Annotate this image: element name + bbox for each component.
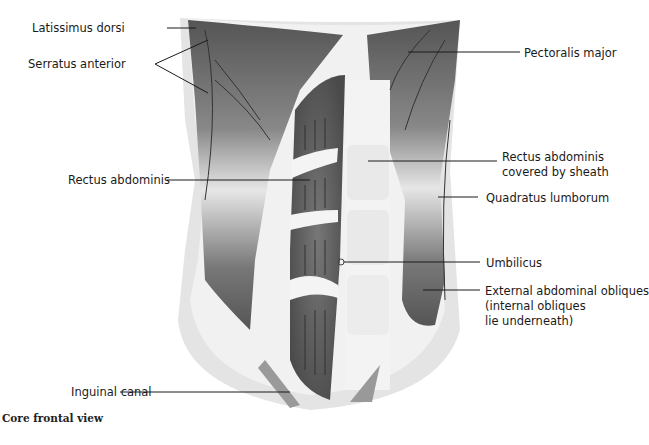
label-latissimus-dorsi: Latissimus dorsi [32,21,125,35]
label-obliques-line3: lie underneath) [485,314,573,328]
label-quadratus-lumborum: Quadratus lumborum [486,191,609,205]
label-rectus-abdominis: Rectus abdominis [68,173,170,187]
label-sheath-line1: Rectus abdominis [502,150,604,164]
figure-caption: Core frontal view [2,412,103,424]
label-umbilicus: Umbilicus [486,256,542,270]
label-inguinal-canal: Inguinal canal [71,385,152,399]
label-obliques-line2: (internal obliques [485,299,586,313]
label-serratus-anterior: Serratus anterior [28,57,126,71]
label-pectoralis-major: Pectoralis major [524,46,617,60]
label-obliques-line1: External abdominal obliques [485,284,649,298]
label-sheath-line2: covered by sheath [502,165,609,179]
